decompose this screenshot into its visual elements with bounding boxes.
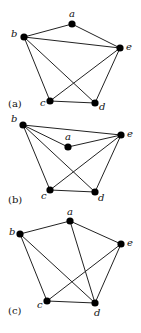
vertex-label-c: c [41,190,47,201]
edge-b-d [23,125,95,192]
vertex-a [66,217,73,224]
edge-b-a [24,24,72,37]
edge-a-d [70,221,95,303]
edge-b-a [23,125,68,147]
vertex-label-c: c [40,97,46,108]
vertex-c [43,297,50,304]
vertex-label-d: d [99,101,105,112]
edge-b-a [20,221,70,234]
edge-b-c [23,125,50,190]
vertex-label-d: d [94,307,100,318]
vertex-c [46,186,53,193]
edge-a-e [72,24,120,48]
graph-panel-c: abecd(c) [8,206,133,318]
vertex-label-a: a [69,8,75,19]
graph-figure: abecd(a) beacd(b) abecd(c) [0,0,141,333]
vertex-label-b: b [11,28,17,39]
vertex-b [20,33,27,40]
edge-e-d [95,244,121,303]
edge-b-c [20,234,47,301]
edge-b-e [24,37,120,48]
edge-b-e [23,125,121,135]
vertex-d [91,99,98,106]
vertex-label-b: b [11,113,17,124]
graph-panel-a: abecd(a) [8,8,132,112]
edge-a-e [70,221,121,244]
vertex-e [117,240,124,247]
graph-panel-b: beacd(b) [8,113,133,205]
panel-label: (b) [8,194,22,205]
vertex-b [16,230,23,237]
edge-e-d [95,48,120,103]
vertex-c [46,97,53,104]
panel-label: (a) [8,98,22,109]
vertex-a [68,20,75,27]
vertex-e [117,131,124,138]
vertex-label-e: e [126,41,132,52]
vertex-a [64,143,71,150]
vertex-label-b: b [9,226,15,237]
vertex-e [116,44,123,51]
vertex-d [91,299,98,306]
vertex-label-d: d [98,192,104,203]
vertex-label-e: e [127,237,133,248]
edge-b-c [24,37,50,101]
vertex-label-a: a [65,131,71,142]
edge-c-d [50,101,95,103]
panel-label: (c) [8,305,22,316]
vertex-b [19,121,26,128]
edge-c-d [47,301,95,303]
edge-b-d [24,37,95,103]
edge-e-d [95,135,121,192]
edge-c-d [50,190,95,192]
vertex-label-c: c [37,299,43,310]
vertex-label-a: a [67,206,73,217]
vertex-label-e: e [127,128,133,139]
